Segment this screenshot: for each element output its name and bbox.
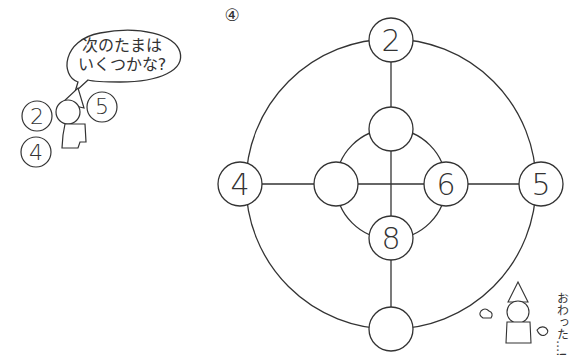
character-head [56, 100, 80, 124]
speech-line-1: 次のたまは [82, 36, 162, 55]
ball-label-2: 2 [30, 104, 44, 129]
node-inner-bottom-value: 8 [381, 221, 400, 256]
puff-left [480, 309, 492, 318]
ending-text: おわった…! [554, 292, 568, 357]
node-inner-right-value: 6 [436, 167, 455, 202]
node-outer-top-value: 2 [381, 23, 400, 58]
ball-label-5: 5 [95, 94, 109, 119]
node-outer-right-value: 5 [531, 167, 550, 202]
node-inner-top[interactable] [369, 107, 413, 151]
character-body [62, 124, 86, 148]
node-outer-left-value: 4 [230, 167, 249, 202]
puzzle-canvas: ④ 次のたまは いくつかな? 2 5 4 2 4 5 6 8 [0, 0, 583, 363]
finished-character-head [507, 301, 529, 323]
speech-line-2: いくつかな? [78, 55, 167, 74]
finished-character-body [506, 322, 531, 343]
puff-right [537, 327, 548, 336]
finished-character [480, 282, 548, 343]
diagram [240, 39, 541, 329]
problem-number: ④ [224, 5, 239, 25]
node-outer-bottom[interactable] [369, 307, 413, 351]
finished-character-hat [508, 282, 528, 302]
node-inner-left[interactable] [314, 162, 358, 206]
ball-label-4: 4 [29, 140, 43, 165]
speech-bubble: 次のたまは いくつかな? [67, 30, 181, 92]
